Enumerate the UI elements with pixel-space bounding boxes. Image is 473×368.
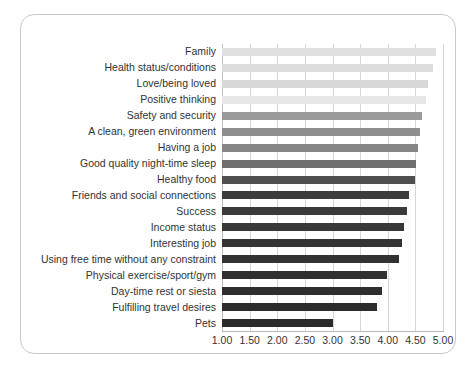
bar-series [222, 44, 443, 331]
bar [222, 96, 426, 104]
bar-row [222, 144, 443, 152]
x-tick-label: 2.00 [267, 334, 287, 346]
bar-row [222, 287, 443, 295]
bar [222, 64, 433, 72]
category-label: Safety and security [24, 110, 216, 121]
x-axis-line [222, 331, 444, 332]
bar-row [222, 176, 443, 184]
category-axis-labels: FamilyHealth status/conditionsLove/being… [24, 44, 216, 331]
bar-row [222, 239, 443, 247]
gridline-5.00 [443, 44, 444, 331]
x-tick-label: 2.50 [295, 334, 315, 346]
category-label: Day-time rest or siesta [24, 286, 216, 297]
bar [222, 255, 399, 263]
bar [222, 239, 402, 247]
category-label: Using free time without any constraint [24, 254, 216, 265]
x-tick-label: 1.00 [212, 334, 232, 346]
bar-row [222, 112, 443, 120]
bar [222, 176, 415, 184]
category-label: Physical exercise/sport/gym [24, 270, 216, 281]
bar-row [222, 223, 443, 231]
x-tick-label: 3.00 [322, 334, 342, 346]
category-label: Positive thinking [24, 94, 216, 105]
bar-row [222, 207, 443, 215]
chart-figure: FamilyHealth status/conditionsLove/being… [0, 0, 473, 368]
category-label: A clean, green environment [24, 126, 216, 137]
bar [222, 48, 436, 56]
bar [222, 80, 428, 88]
category-label: Income status [24, 222, 216, 233]
category-label: Love/being loved [24, 78, 216, 89]
x-tick-label: 3.50 [350, 334, 370, 346]
bar [222, 191, 409, 199]
category-label: Family [24, 46, 216, 57]
bar [222, 223, 404, 231]
category-label: Healthy food [24, 174, 216, 185]
category-label: Interesting job [24, 238, 216, 249]
category-label: Having a job [24, 142, 216, 153]
bar [222, 287, 382, 295]
category-label: Fulfilling travel desires [24, 302, 216, 313]
bar-row [222, 255, 443, 263]
bar-row [222, 48, 443, 56]
x-tick-label: 1.50 [239, 334, 259, 346]
bar [222, 271, 387, 279]
bar [222, 207, 407, 215]
bar [222, 112, 422, 120]
plot-area [222, 44, 443, 331]
category-label: Health status/conditions [24, 62, 216, 73]
bar-row [222, 191, 443, 199]
bar [222, 303, 377, 311]
x-tick-label: 4.00 [378, 334, 398, 346]
bar-row [222, 303, 443, 311]
x-tick-label: 5.00 [433, 334, 453, 346]
x-axis-tick-labels: 1.001.502.002.503.003.504.004.505.00 [222, 334, 443, 350]
category-label: Success [24, 206, 216, 217]
bar-row [222, 271, 443, 279]
bar-row [222, 96, 443, 104]
x-tick-label: 4.50 [405, 334, 425, 346]
bar [222, 144, 418, 152]
bar-row [222, 80, 443, 88]
category-label: Friends and social connections [24, 190, 216, 201]
bar-row [222, 319, 443, 327]
bar-row [222, 64, 443, 72]
bar-row [222, 160, 443, 168]
bar [222, 160, 416, 168]
category-label: Good quality night-time sleep [24, 158, 216, 169]
bar-row [222, 128, 443, 136]
bar [222, 319, 333, 327]
bar [222, 128, 420, 136]
category-label: Pets [24, 318, 216, 329]
